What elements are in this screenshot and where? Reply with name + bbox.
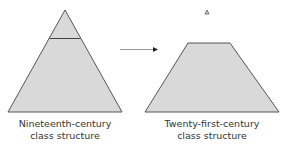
twenty-first-century-label-line2: class structure bbox=[147, 130, 277, 142]
twenty-first-century-trapezoid bbox=[145, 43, 279, 112]
twenty-first-century-label: Twenty-first-century class structure bbox=[147, 118, 277, 142]
twenty-first-century-label-line1: Twenty-first-century bbox=[147, 118, 277, 130]
nineteenth-century-label-line2: class structure bbox=[0, 130, 130, 142]
nineteenth-century-label-line1: Nineteenth-century bbox=[0, 118, 130, 130]
transition-arrow-head bbox=[153, 47, 158, 52]
detached-apex-triangle bbox=[205, 10, 209, 14]
nineteenth-century-label: Nineteenth-century class structure bbox=[0, 118, 130, 142]
nineteenth-century-pyramid bbox=[8, 10, 122, 112]
